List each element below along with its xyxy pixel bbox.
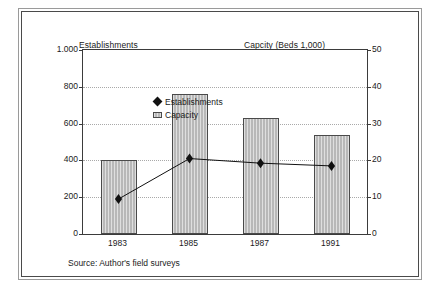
left-axis-ticks: 02004006008001.000 — [28, 49, 78, 233]
source-note: Source: Author's field surveys — [68, 258, 180, 268]
left-tick-label: 0 — [32, 229, 78, 238]
figure-inner-border: Establishments Capcity (Beds 1,000) 0200… — [21, 11, 419, 277]
right-tickmark — [367, 234, 371, 235]
right-tickmark — [367, 160, 371, 161]
x-axis-category-labels: 1983198519871991 — [82, 238, 368, 252]
diamond-marker-1985 — [186, 154, 193, 164]
right-axis-ticks: 01020304050 — [372, 49, 422, 233]
right-tickmark — [367, 87, 371, 88]
right-tick-label: 10 — [372, 192, 418, 201]
plot-area: EstablishmentsCapacity — [82, 49, 368, 235]
right-tick-label: 0 — [372, 229, 418, 238]
x-label-1987: 1987 — [230, 238, 290, 248]
diamond-marker-1987 — [257, 158, 264, 168]
establishments-line — [119, 159, 332, 199]
right-tick-label: 50 — [372, 45, 418, 54]
chart-legend: EstablishmentsCapacity — [151, 95, 223, 121]
right-tickmark — [367, 197, 371, 198]
legend-label: Establishments — [164, 97, 223, 107]
legend-swatch — [151, 112, 164, 118]
line-series-establishments — [83, 50, 367, 234]
x-label-1985: 1985 — [159, 238, 219, 248]
left-tickmark — [79, 234, 83, 235]
legend-swatch — [151, 98, 164, 105]
diamond-marker-1991 — [328, 161, 335, 171]
legend-item-capacity: Capacity — [151, 108, 223, 121]
left-tick-label: 1.000 — [32, 45, 78, 54]
right-tickmark — [367, 50, 371, 51]
right-tick-label: 20 — [372, 155, 418, 164]
left-tick-label: 400 — [32, 155, 78, 164]
right-tick-label: 30 — [372, 119, 418, 128]
x-label-1983: 1983 — [88, 238, 148, 248]
legend-label: Capacity — [164, 110, 198, 120]
left-tick-label: 600 — [32, 119, 78, 128]
right-tickmark — [367, 124, 371, 125]
diamond-marker-1983 — [115, 194, 122, 204]
diamond-marker-icon — [153, 97, 163, 107]
right-tick-label: 40 — [372, 82, 418, 91]
x-label-1991: 1991 — [301, 238, 361, 248]
bar-swatch-icon — [153, 112, 162, 118]
left-tick-label: 200 — [32, 192, 78, 201]
figure-frame: Establishments Capcity (Beds 1,000) 0200… — [18, 8, 422, 280]
left-tick-label: 800 — [32, 82, 78, 91]
legend-item-establishments: Establishments — [151, 95, 223, 108]
